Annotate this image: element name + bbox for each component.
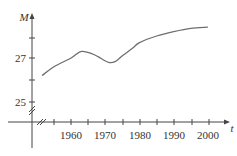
x-tick-label-1980: 1980 xyxy=(129,129,152,141)
x-tick-label-1990: 1990 xyxy=(163,129,186,141)
x-tick-label-2000: 2000 xyxy=(197,129,220,141)
x-tick-label-1970: 1970 xyxy=(94,129,117,141)
y-axis-arrow-icon xyxy=(30,13,35,19)
y-tick-label-27: 27 xyxy=(15,52,27,64)
y-tick-label-25: 25 xyxy=(15,96,27,108)
x-axis-label: t xyxy=(230,122,234,134)
x-axis-arrow-icon xyxy=(224,120,230,125)
line-chart: 27 25 M 1960 1970 1980 1990 2000 t xyxy=(0,0,237,156)
data-series-line xyxy=(42,27,208,75)
x-tick-label-1960: 1960 xyxy=(60,129,83,141)
y-axis-label: M xyxy=(18,11,29,23)
